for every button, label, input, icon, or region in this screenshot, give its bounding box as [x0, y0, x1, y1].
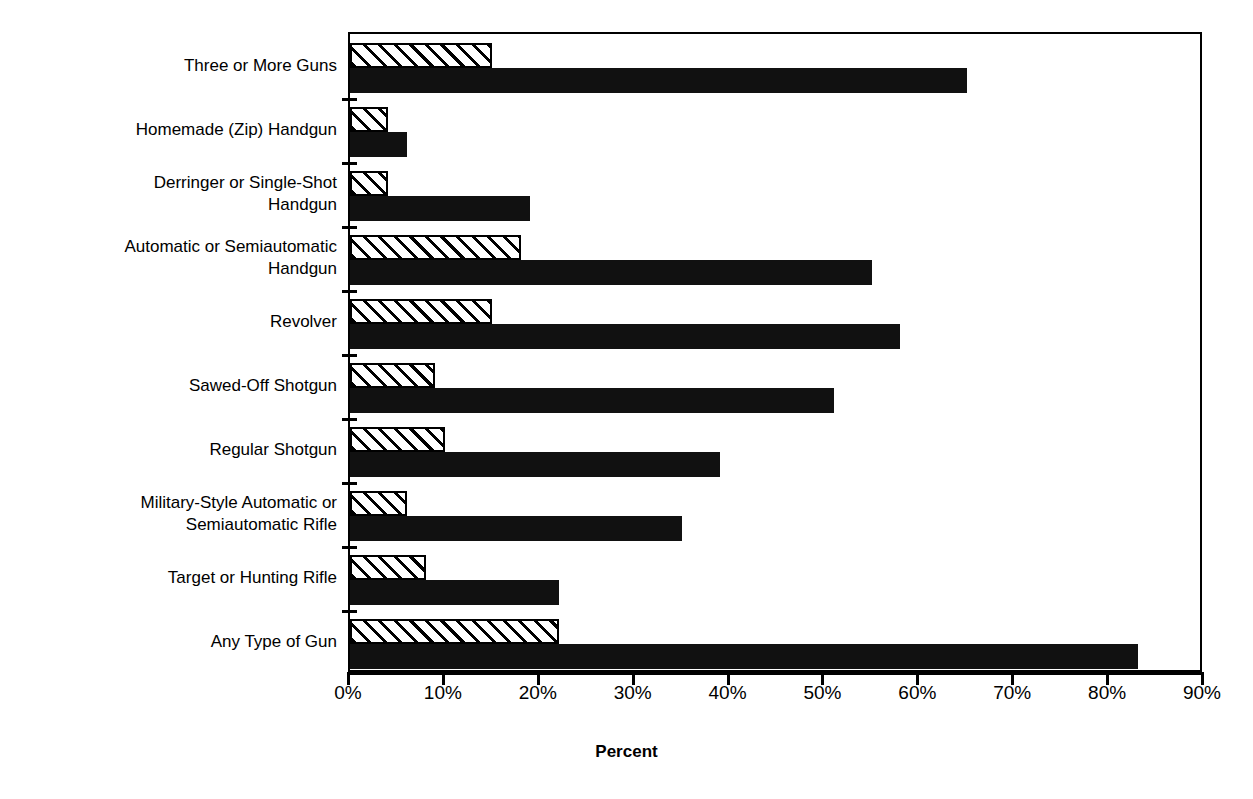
bar-solid [350, 196, 530, 221]
category-group [350, 610, 1200, 674]
chart-page: Three or More GunsHomemade (Zip) Handgun… [0, 0, 1253, 799]
category-group [350, 354, 1200, 418]
category-group [350, 162, 1200, 226]
category-group [350, 418, 1200, 482]
bar-solid [350, 644, 1138, 669]
category-tick [342, 98, 357, 101]
bar-solid [350, 132, 407, 157]
bar-solid [350, 516, 682, 541]
bar-solid [350, 68, 967, 93]
category-tick [342, 482, 357, 485]
category-label: Target or Hunting Rifle [7, 567, 337, 589]
bar-hatched [350, 299, 492, 324]
category-group [350, 98, 1200, 162]
bar-solid [350, 580, 559, 605]
category-group [350, 226, 1200, 290]
category-label: Regular Shotgun [7, 439, 337, 461]
x-tick-label: 20% [498, 682, 578, 704]
bar-rows [350, 34, 1200, 670]
bar-hatched [350, 235, 521, 260]
x-tick-label: 0% [308, 682, 388, 704]
category-tick [342, 290, 357, 293]
bar-hatched [350, 555, 426, 580]
category-label: Military-Style Automatic or Semiautomati… [7, 492, 337, 536]
bar-hatched [350, 171, 388, 196]
x-axis-title: Percent [0, 742, 1253, 762]
category-tick [342, 546, 357, 549]
category-label: Revolver [7, 311, 337, 333]
x-tick-label: 10% [403, 682, 483, 704]
bar-hatched [350, 491, 407, 516]
category-label: Homemade (Zip) Handgun [7, 119, 337, 141]
category-tick [342, 162, 357, 165]
bar-solid [350, 452, 720, 477]
x-tick-label: 90% [1162, 682, 1242, 704]
category-group [350, 290, 1200, 354]
category-tick [342, 418, 357, 421]
bar-hatched [350, 43, 492, 68]
x-tick-label: 80% [1067, 682, 1147, 704]
category-label: Derringer or Single-Shot Handgun [7, 172, 337, 216]
category-label: Automatic or Semiautomatic Handgun [7, 236, 337, 280]
x-tick-label: 60% [877, 682, 957, 704]
x-tick-label: 40% [688, 682, 768, 704]
bar-hatched [350, 619, 559, 644]
plot-area [348, 32, 1202, 672]
x-tick-label: 50% [782, 682, 862, 704]
category-label: Any Type of Gun [7, 631, 337, 653]
category-tick [342, 354, 357, 357]
category-label: Sawed-Off Shotgun [7, 375, 337, 397]
category-tick [342, 226, 357, 229]
category-group [350, 546, 1200, 610]
category-label: Three or More Guns [7, 55, 337, 77]
bar-hatched [350, 427, 445, 452]
category-tick [342, 610, 357, 613]
bar-solid [350, 324, 900, 349]
bar-hatched [350, 363, 435, 388]
x-tick-label: 30% [593, 682, 673, 704]
category-group [350, 482, 1200, 546]
bar-solid [350, 388, 834, 413]
bar-solid [350, 260, 872, 285]
bar-hatched [350, 107, 388, 132]
x-axis-line [348, 672, 1202, 675]
category-group [350, 34, 1200, 98]
x-tick-label: 70% [972, 682, 1052, 704]
